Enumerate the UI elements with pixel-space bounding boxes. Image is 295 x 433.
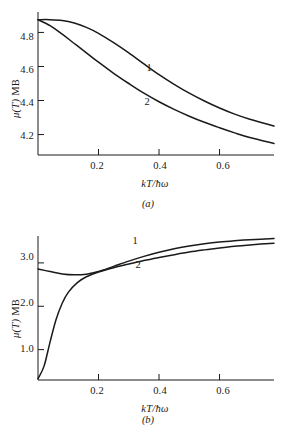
panel-a-caption: (a) xyxy=(128,198,168,209)
panel-a-ytick-0: 4.8 xyxy=(4,31,34,42)
panel-a-curve-label-2: 2 xyxy=(140,96,154,107)
panel-b-ytick-0: 3.0 xyxy=(4,251,34,262)
panel-b-xtick-1: 0.4 xyxy=(145,385,175,396)
plot-panel-a: 4.8 4.6 4.4 4.2 0.2 0.4 0.6 kT/ħω μ(T) M… xyxy=(0,0,295,216)
panel-b-yaxis-unit: MB xyxy=(10,299,21,319)
panel-a-xtick-1: 0.4 xyxy=(145,160,175,171)
panel-b-yaxis-title: μ(T) MB xyxy=(10,299,21,338)
panel-a-yaxis-title: μ(T) MB xyxy=(10,79,21,118)
panel-a-curve-label-1: 1 xyxy=(142,62,156,73)
panel-b-curve-label-1: 1 xyxy=(128,235,142,246)
panel-a-xtick-0: 0.2 xyxy=(82,160,112,171)
panel-a-yaxis-unit: MB xyxy=(10,79,21,99)
panel-b-xtick-2: 0.6 xyxy=(208,385,238,396)
panel-a-ytick-1: 4.6 xyxy=(4,64,34,75)
panel-a-xtick-2: 0.6 xyxy=(208,160,238,171)
panel-b-caption: (b) xyxy=(128,414,168,425)
plot-b-graphics xyxy=(0,216,295,433)
panel-a-ytick-3: 4.2 xyxy=(4,130,34,141)
panel-b-xaxis-title: kT/ħω xyxy=(95,403,215,414)
panel-b-yaxis-mu: μ(T) xyxy=(10,319,21,338)
panel-a-xaxis-title: kT/ħω xyxy=(95,178,215,189)
panel-a-yaxis-mu: μ(T) xyxy=(10,99,21,118)
plot-panel-b: 3.0 2.0 1.0 0.2 0.4 0.6 kT/ħω μ(T) MB 1 … xyxy=(0,216,295,433)
panel-b-ytick-2: 1.0 xyxy=(4,343,34,354)
figure-container: 4.8 4.6 4.4 4.2 0.2 0.4 0.6 kT/ħω μ(T) M… xyxy=(0,0,295,433)
panel-b-xtick-0: 0.2 xyxy=(82,385,112,396)
panel-b-curve-label-2: 2 xyxy=(131,259,145,270)
